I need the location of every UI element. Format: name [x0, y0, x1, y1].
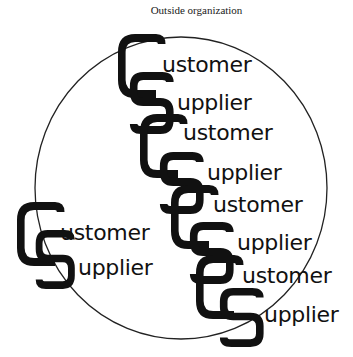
pair-inside-4: ustomer upplier — [200, 259, 340, 343]
supplier-text: upplier — [177, 90, 253, 115]
pair-outside: ustomer upplier — [21, 206, 154, 285]
supplier-text: upplier — [207, 160, 283, 185]
customer-text: ustomer — [162, 52, 253, 77]
big-s-glyph — [164, 156, 200, 210]
pair-inside-1: ustomer upplier — [122, 38, 253, 130]
customer-text: ustomer — [213, 192, 304, 217]
big-c-glyph — [200, 259, 240, 315]
customer-text: ustomer — [183, 120, 274, 145]
big-c-glyph — [122, 38, 162, 94]
customer-text: ustomer — [242, 263, 333, 288]
customer-supplier-chain-diagram: Outside organization ustomer upplier ust — [0, 0, 353, 357]
supplier-text: upplier — [237, 230, 313, 255]
supplier-text: upplier — [78, 255, 154, 280]
customer-text: ustomer — [60, 220, 151, 245]
supplier-text: upplier — [264, 302, 340, 327]
diagram-canvas: ustomer upplier ustomer upplier ustomer … — [0, 0, 353, 357]
big-s-glyph — [224, 292, 260, 343]
